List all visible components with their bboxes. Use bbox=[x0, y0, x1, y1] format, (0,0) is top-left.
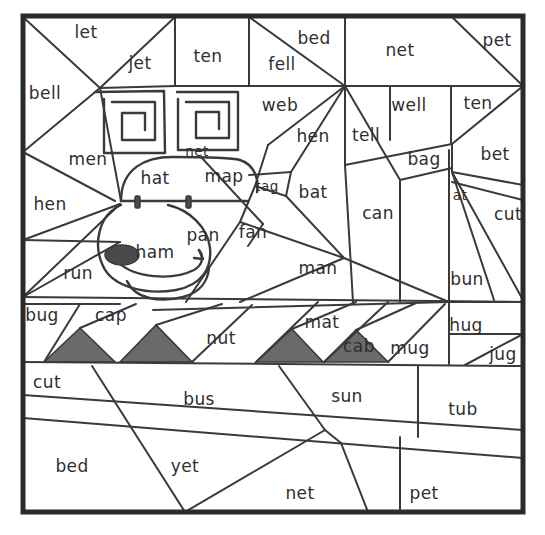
puzzle-word-sun: sun bbox=[331, 386, 363, 406]
dog-nose bbox=[105, 245, 139, 265]
puzzle-word-bell: bell bbox=[29, 83, 61, 103]
puzzle-word-bet: bet bbox=[480, 144, 509, 164]
puzzle-word-bun: bun bbox=[450, 269, 484, 289]
puzzle-word-bag: bag bbox=[407, 149, 440, 169]
dog-right-eye bbox=[186, 196, 191, 208]
puzzle-word-jug: jug bbox=[488, 344, 517, 364]
puzzle-word-ten: ten bbox=[193, 46, 222, 66]
puzzle-word-pet: pet bbox=[482, 30, 511, 50]
puzzle-word-man: man bbox=[299, 258, 338, 278]
puzzle-word-cut: cut bbox=[494, 204, 522, 224]
puzzle-word-let: let bbox=[74, 22, 97, 42]
puzzle-word-cap: cap bbox=[95, 305, 127, 325]
puzzle-word-men: men bbox=[69, 149, 108, 169]
puzzle-word-jet: jet bbox=[127, 53, 151, 73]
puzzle-word-tub: tub bbox=[448, 399, 477, 419]
dog-left-eye bbox=[135, 196, 140, 208]
puzzle-word-cut: cut bbox=[33, 372, 61, 392]
puzzle-word-bat: bat bbox=[298, 182, 327, 202]
puzzle-word-pan: pan bbox=[186, 225, 219, 245]
puzzle-word-bug: bug bbox=[25, 305, 59, 325]
puzzle-canvas: letjettenbedfellnetpetbellwebwelltenhent… bbox=[0, 0, 545, 535]
puzzle-word-run: run bbox=[63, 263, 93, 283]
puzzle-word-ten: ten bbox=[463, 93, 492, 113]
puzzle-word-fan: fan bbox=[239, 222, 267, 242]
puzzle-word-hat: hat bbox=[140, 168, 169, 188]
puzzle-word-mat: mat bbox=[305, 312, 340, 332]
puzzle-word-cab: cab bbox=[343, 336, 375, 356]
puzzle-svg: letjettenbedfellnetpetbellwebwelltenhent… bbox=[0, 0, 545, 535]
puzzle-word-hen: hen bbox=[296, 126, 329, 146]
puzzle-word-hug: hug bbox=[449, 315, 483, 335]
puzzle-word-net: net bbox=[285, 483, 314, 503]
puzzle-word-map: map bbox=[205, 166, 244, 186]
puzzle-word-yet: yet bbox=[171, 456, 199, 476]
puzzle-word-web: web bbox=[262, 95, 298, 115]
puzzle-word-can: can bbox=[362, 203, 394, 223]
puzzle-word-tell: tell bbox=[352, 125, 380, 145]
puzzle-word-ham: ham bbox=[136, 242, 175, 262]
puzzle-word-bus: bus bbox=[183, 389, 215, 409]
puzzle-word-well: well bbox=[391, 95, 426, 115]
puzzle-word-mug: mug bbox=[390, 338, 429, 358]
puzzle-word-bed: bed bbox=[297, 28, 330, 48]
puzzle-word-fell: fell bbox=[268, 54, 296, 74]
puzzle-word-net: net bbox=[385, 40, 414, 60]
puzzle-word-nut: nut bbox=[206, 328, 235, 348]
puzzle-word-tag: tag bbox=[255, 178, 278, 194]
puzzle-word-bed: bed bbox=[55, 456, 88, 476]
puzzle-word-at: at bbox=[453, 187, 467, 203]
puzzle-word-net: net bbox=[185, 143, 208, 159]
puzzle-word-pet: pet bbox=[409, 483, 438, 503]
puzzle-word-hen: hen bbox=[33, 194, 66, 214]
